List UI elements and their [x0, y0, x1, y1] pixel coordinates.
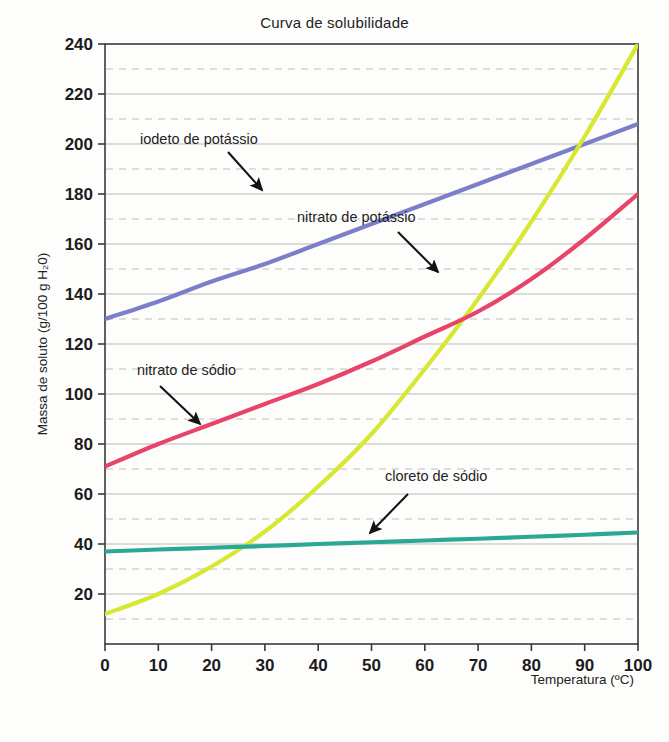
- y-tick-label: 60: [74, 485, 93, 504]
- annotation-arrow-cloreto-de-sódio: [370, 494, 408, 533]
- y-axis-tick-labels: 20406080100120140160180200220240: [65, 35, 93, 604]
- y-axis-title: Massa de soluto (g/100 g H₂0): [35, 253, 50, 435]
- solubility-chart-figure: Curva de solubilidade 204060801001201401…: [0, 0, 669, 742]
- y-tick-label: 40: [74, 535, 93, 554]
- x-tick-label: 0: [100, 656, 109, 675]
- x-tick-label: 40: [309, 656, 328, 675]
- x-axis-title: Temperatura (ºC): [531, 672, 634, 687]
- y-tick-label: 120: [65, 335, 93, 354]
- x-tick-label: 10: [149, 656, 168, 675]
- series-label-iodeto-de-potássio: iodeto de potássio: [140, 131, 258, 147]
- y-tick-label: 220: [65, 85, 93, 104]
- y-tick-label: 140: [65, 285, 93, 304]
- annotation-arrow-iodeto-de-potássio: [228, 152, 262, 190]
- x-tick-label: 70: [469, 656, 488, 675]
- y-tick-label: 160: [65, 235, 93, 254]
- y-tick-label: 240: [65, 35, 93, 54]
- y-tick-label: 100: [65, 385, 93, 404]
- y-tick-label: 80: [74, 435, 93, 454]
- series-line-nitrato-de-sódio: [105, 194, 638, 467]
- series-line-cloreto-de-sódio: [105, 533, 638, 552]
- x-tick-label: 20: [202, 656, 221, 675]
- x-tick-label: 30: [255, 656, 274, 675]
- annotation-arrow-nitrato-de-potássio: [398, 232, 438, 272]
- x-tick-label: 60: [415, 656, 434, 675]
- y-tick-label: 200: [65, 135, 93, 154]
- series-label-cloreto-de-sódio: cloreto de sódio: [385, 468, 487, 484]
- x-tick-label: 50: [362, 656, 381, 675]
- y-tick-label: 20: [74, 585, 93, 604]
- y-tick-label: 180: [65, 185, 93, 204]
- series-label-nitrato-de-potássio: nitrato de potássio: [297, 209, 416, 225]
- series-lines: [105, 44, 638, 614]
- annotation-arrow-nitrato-de-sódio: [160, 386, 200, 424]
- solubility-plot: 20406080100120140160180200220240 0102030…: [0, 0, 669, 742]
- series-line-nitrato-de-potássio: [105, 44, 638, 614]
- series-label-nitrato-de-sódio: nitrato de sódio: [137, 362, 236, 378]
